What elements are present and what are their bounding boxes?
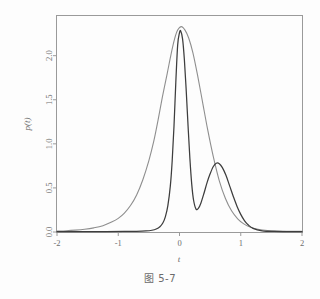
x-axis-tick-labels: -2-1012 bbox=[53, 238, 304, 248]
y-axis-title: p(t) bbox=[22, 118, 32, 132]
curve-wide-unimodal bbox=[57, 27, 302, 232]
y-tick-label: 1.5 bbox=[44, 94, 54, 105]
y-tick-label: 0.5 bbox=[44, 183, 54, 194]
x-tick-label: 2 bbox=[300, 238, 304, 248]
plot-frame bbox=[57, 16, 303, 233]
y-tick-label: 2.0 bbox=[44, 50, 54, 61]
x-tick-label: -2 bbox=[53, 238, 60, 248]
figure-caption: 图 5-7 bbox=[0, 270, 320, 285]
figure-container: -2-1012 0.00.51.01.52.0 t p(t) 图 5-7 bbox=[0, 0, 320, 299]
y-axis-tick-labels: 0.00.51.01.52.0 bbox=[44, 50, 54, 237]
y-tick-label: 0.0 bbox=[44, 227, 54, 238]
x-tick-label: 0 bbox=[177, 238, 181, 248]
x-axis-title: t bbox=[178, 254, 181, 264]
x-tick-label: -1 bbox=[115, 238, 122, 248]
curve-narrow-bimodal bbox=[57, 30, 302, 231]
x-tick-label: 1 bbox=[239, 238, 243, 248]
y-tick-label: 1.0 bbox=[44, 139, 54, 150]
chart-canvas: -2-1012 0.00.51.01.52.0 t p(t) bbox=[0, 0, 320, 299]
